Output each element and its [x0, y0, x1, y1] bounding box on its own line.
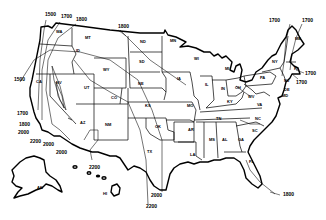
state-label-al: AL [222, 137, 228, 142]
state-label-sd: SD [139, 59, 145, 64]
label-leaders [118, 30, 304, 195]
state-label-in: IN [221, 86, 225, 91]
state-label-ak: AK [37, 185, 43, 190]
us-map-svg: WA MT ID WY NV CA UT CO AZ NM ND SD NE K… [0, 0, 326, 220]
isoline-label: 1800 [76, 16, 87, 22]
state-borders [36, 28, 296, 160]
state-label-ne: NE [138, 81, 144, 86]
state-label-nj: NJ [284, 78, 289, 83]
state-label-nc: NC [255, 116, 261, 121]
state-label-mo: MO [187, 103, 193, 108]
isoline-label: 1500 [45, 11, 56, 17]
state-label-ca: CA [36, 79, 42, 84]
state-label-ar: AR [188, 127, 194, 132]
us-outline [30, 23, 304, 190]
state-label-tx: TX [147, 149, 152, 154]
isoline-label: 1800 [283, 191, 294, 197]
state-label-md: MD [282, 93, 288, 98]
isoline-label: 2000 [151, 192, 162, 198]
alaska-outline [12, 156, 62, 198]
state-label-az: AZ [80, 120, 86, 125]
state-label-ri: RI [294, 66, 298, 71]
state-label-mn: MN [170, 38, 176, 43]
isoline-label: 1700 [302, 17, 313, 23]
isoline-labels: 1500 1700 1800 1500 1800 1700 1700 1700 … [14, 11, 316, 209]
state-label-ga: GA [238, 137, 244, 142]
state-label-ok: OK [155, 124, 161, 129]
state-label-nm: NM [105, 122, 112, 127]
state-label-hi: HI [103, 191, 107, 196]
isoline-label: 2000 [56, 149, 67, 155]
state-label-ky: KY [227, 99, 233, 104]
state-label-va: VA [257, 102, 262, 107]
state-label-id: ID [76, 48, 80, 53]
state-label-la: LA [190, 152, 195, 157]
state-label-de: DE [284, 87, 290, 92]
isoline-label: 1700 [17, 110, 28, 116]
isoline-label: 2000 [18, 129, 29, 135]
state-label-co: CO [111, 95, 117, 100]
isoline-label: 1800 [118, 23, 129, 29]
state-label-mi: MI [225, 66, 229, 71]
state-label-ks: KS [145, 103, 151, 108]
state-label-me: ME [295, 36, 301, 41]
isoline-label: 1700 [305, 70, 316, 76]
state-label-nd: ND [140, 39, 146, 44]
state-label-wv: WV [248, 94, 255, 99]
state-label-nv: NV [56, 80, 62, 85]
state-label-wa: WA [56, 29, 63, 34]
isoline-map: WA MT ID WY NV CA UT CO AZ NM ND SD NE K… [0, 0, 326, 220]
isoline-label: 1500 [14, 76, 25, 82]
state-label-il: IL [205, 82, 209, 87]
state-label-ut: UT [84, 85, 90, 90]
state-label-ms: MS [209, 137, 215, 142]
state-label-tn: TN [216, 116, 221, 121]
isoline-label: 1800 [19, 121, 30, 127]
state-label-wy: WY [103, 67, 110, 72]
state-label-oh: OH [235, 85, 241, 90]
isoline-label: 2200 [30, 138, 41, 144]
state-label-pa: PA [260, 75, 265, 80]
isoline-label: 1700 [61, 13, 72, 19]
isoline-label: 2000 [43, 141, 54, 147]
isoline-label: 2200 [146, 203, 157, 209]
state-label-fl: FL [249, 159, 254, 164]
isoline-label: 2200 [89, 164, 100, 170]
isoline-label: 1700 [296, 79, 307, 85]
state-label-ny: NY [272, 59, 278, 64]
state-label-wi: WI [194, 56, 199, 61]
hawaii-islands [73, 166, 120, 196]
state-label-mt: MT [85, 35, 91, 40]
isoline-label: 1700 [269, 17, 280, 23]
state-label-sc: SC [252, 128, 258, 133]
state-label-ia: IA [177, 76, 181, 81]
